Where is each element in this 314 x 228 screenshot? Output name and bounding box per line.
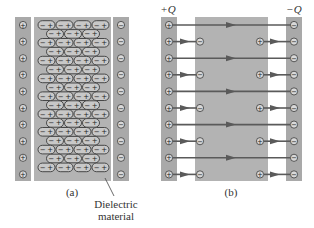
dipole: −+ [38, 39, 55, 48]
negative-charge: − [117, 121, 124, 129]
positive-charge: + [165, 154, 172, 162]
dipole: −+ [83, 101, 100, 110]
svg-text:−: − [58, 111, 64, 119]
positive-charge: + [165, 38, 172, 46]
svg-text:−: − [291, 55, 297, 63]
svg-text:+: + [83, 111, 89, 119]
svg-text:−: − [76, 128, 82, 136]
dipole: −+ [47, 119, 64, 128]
svg-text:−: − [76, 39, 82, 47]
svg-text:+: + [101, 39, 107, 47]
svg-text:+: + [56, 66, 62, 74]
svg-text:−: − [58, 164, 64, 172]
positive-charge: + [165, 121, 172, 129]
svg-text:−: − [48, 102, 54, 110]
svg-text:+: + [101, 57, 107, 65]
svg-text:+: + [47, 39, 53, 47]
svg-text:−: − [40, 57, 46, 65]
caption-a: (a) [66, 186, 79, 199]
dipole: −+ [65, 65, 82, 74]
negative-charge: − [117, 21, 124, 29]
svg-text:+: + [166, 121, 172, 129]
svg-text:+: + [92, 137, 98, 145]
svg-text:−: − [58, 39, 64, 47]
negative-charge: − [290, 154, 297, 162]
svg-text:−: − [48, 155, 54, 163]
dipole: −+ [74, 110, 91, 119]
negative-charge: − [117, 138, 124, 146]
svg-text:−: − [66, 30, 72, 38]
negative-charge: − [290, 38, 297, 46]
dipole: −+ [83, 83, 100, 92]
svg-text:+: + [166, 71, 172, 79]
dipole: −+ [47, 83, 64, 92]
svg-text:+: + [74, 84, 80, 92]
induced-negative-charge: − [196, 138, 203, 146]
svg-text:+: + [20, 88, 26, 96]
induced-positive-charge: + [256, 104, 263, 112]
dipole: −+ [92, 74, 109, 83]
dipole: −+ [74, 74, 91, 83]
dipole: −+ [56, 128, 73, 137]
svg-text:+: + [101, 164, 107, 172]
svg-text:+: + [47, 128, 53, 136]
dipole: −+ [38, 92, 55, 101]
callout-dielectric: Dielectric [94, 198, 137, 210]
svg-text:−: − [118, 71, 124, 79]
svg-text:−: − [118, 105, 124, 113]
dipole: −+ [38, 163, 55, 172]
svg-text:+: + [101, 22, 107, 30]
svg-text:−: − [40, 39, 46, 47]
svg-text:+: + [47, 57, 53, 65]
svg-text:−: − [58, 75, 64, 83]
svg-text:+: + [47, 93, 53, 101]
svg-text:−: − [84, 137, 90, 145]
panel-b: +Q −Q ++++++++++ −−−−−−−−−− −+−+−+−+−+ (… [160, 3, 302, 199]
svg-text:+: + [166, 138, 172, 146]
induced-positive-charge: + [256, 38, 263, 46]
svg-text:−: − [84, 84, 90, 92]
dipole: −+ [83, 154, 100, 163]
positive-charge: + [19, 104, 26, 112]
induced-positive-charge: + [256, 71, 263, 79]
positive-charge: + [165, 104, 172, 112]
svg-text:+: + [20, 71, 26, 79]
dipole: −+ [56, 145, 73, 154]
dipole: −+ [65, 47, 82, 56]
svg-text:−: − [40, 111, 46, 119]
svg-text:−: − [197, 171, 203, 179]
plus-q-label: +Q [160, 3, 175, 15]
svg-text:−: − [291, 38, 297, 46]
svg-text:+: + [47, 164, 53, 172]
svg-text:+: + [20, 121, 26, 129]
dipole: −+ [92, 163, 109, 172]
dipole: −+ [92, 39, 109, 48]
svg-text:−: − [84, 66, 90, 74]
negative-charge: − [117, 104, 124, 112]
svg-text:+: + [257, 105, 263, 113]
svg-text:−: − [40, 164, 46, 172]
dipole: −+ [65, 101, 82, 110]
svg-text:−: − [58, 93, 64, 101]
svg-text:−: − [48, 30, 54, 38]
dipole: −+ [47, 30, 64, 39]
svg-text:+: + [65, 75, 71, 83]
dipole: −+ [56, 56, 73, 65]
svg-text:−: − [94, 57, 100, 65]
dipole: −+ [38, 21, 55, 30]
svg-text:−: − [94, 146, 100, 154]
svg-text:−: − [76, 164, 82, 172]
svg-text:+: + [20, 55, 26, 63]
svg-text:+: + [83, 128, 89, 136]
negative-charge: − [117, 154, 124, 162]
svg-text:−: − [76, 75, 82, 83]
svg-text:−: − [84, 119, 90, 127]
svg-text:+: + [83, 39, 89, 47]
svg-text:−: − [66, 84, 72, 92]
dipole: −+ [65, 154, 82, 163]
svg-text:+: + [83, 93, 89, 101]
svg-text:+: + [65, 164, 71, 172]
svg-text:+: + [92, 48, 98, 56]
svg-text:−: − [66, 66, 72, 74]
dipole: −+ [74, 21, 91, 30]
